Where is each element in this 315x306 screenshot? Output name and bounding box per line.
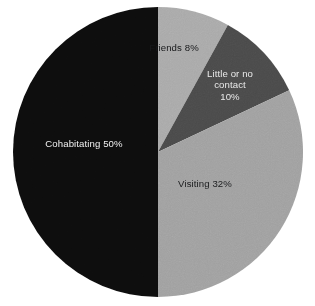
- pie-chart: Friends 8% Little or no contact 10% Visi…: [0, 0, 315, 306]
- pie-slices-group: [13, 7, 303, 297]
- pie-chart-canvas: [0, 0, 315, 306]
